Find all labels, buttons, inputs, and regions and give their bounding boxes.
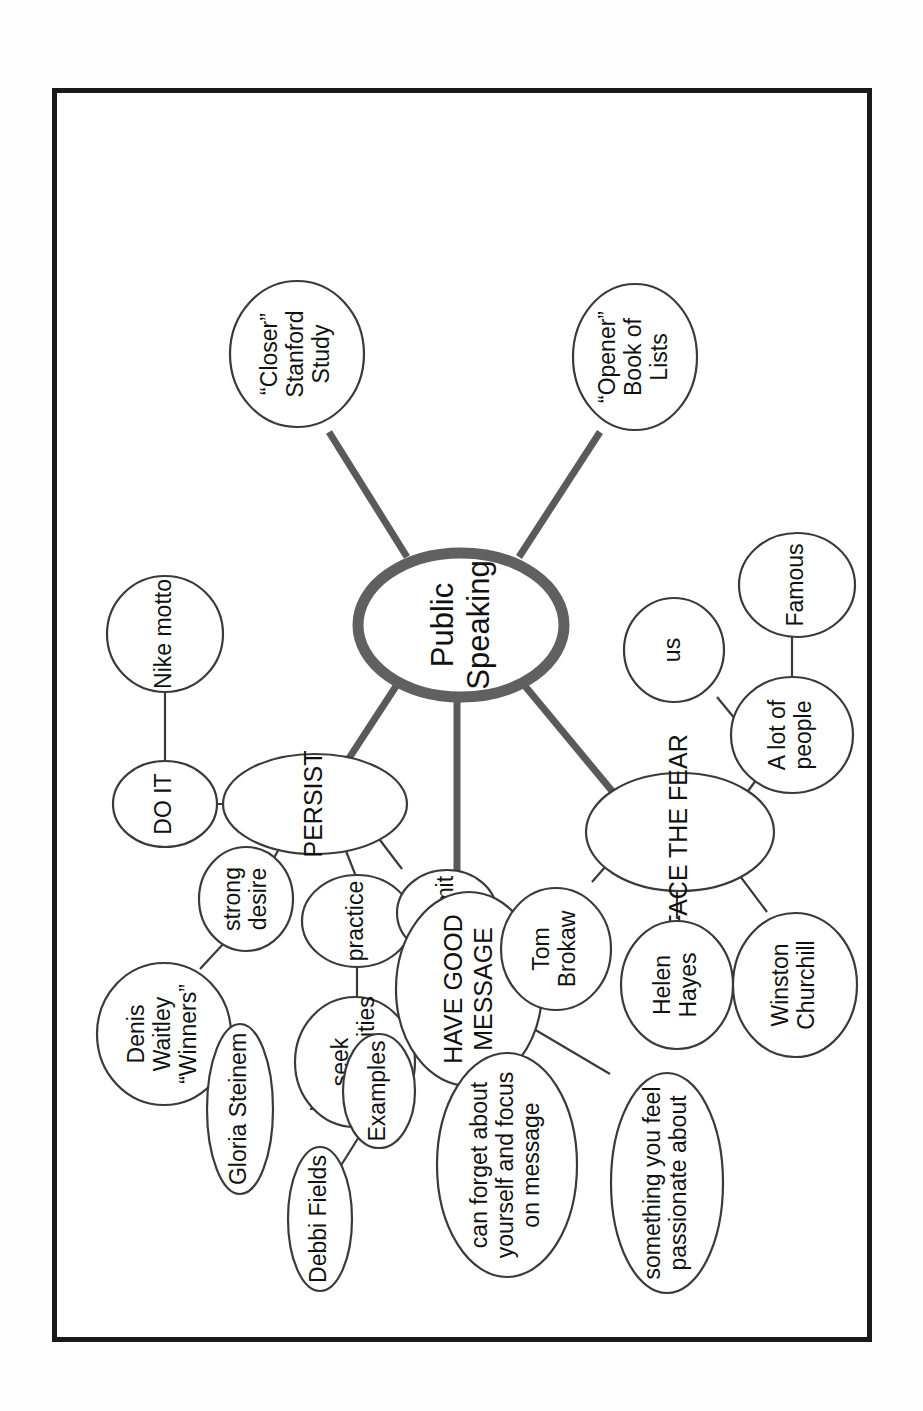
- node-label-closer-line3: Study: [308, 324, 334, 383]
- node-strong-desire[interactable]: strong desire: [199, 847, 293, 951]
- node-label-us: us: [659, 638, 685, 662]
- node-label-examples: Examples: [364, 1041, 390, 1142]
- node-label-opener-line1: “Opener”: [594, 311, 620, 403]
- page-canvas: Public Speaking PERSIST DO IT Nike motto: [0, 0, 923, 1411]
- node-label-public-speaking-line1: Public: [425, 583, 460, 667]
- node-label-passionate-line1: something you feel: [639, 1086, 665, 1279]
- node-label-denis-line3: “Winners”: [175, 984, 201, 1084]
- node-helen-hayes[interactable]: Helen Hayes: [621, 921, 733, 1049]
- node-famous[interactable]: Famous: [739, 533, 855, 637]
- mindmap-svg: Public Speaking PERSIST DO IT Nike motto: [57, 93, 867, 1337]
- node-label-face-the-fear: FACE THE FEAR: [664, 734, 692, 929]
- node-label-message-line2: MESSAGE: [469, 927, 497, 1051]
- node-label-denis-line1: Denis: [123, 1005, 149, 1064]
- node-label-gloria-steinem: Gloria Steinem: [225, 1033, 251, 1185]
- node-label-debbi-fields: Debbi Fields: [305, 1155, 331, 1283]
- node-label-tom-line1: Tom: [528, 927, 554, 970]
- node-label-closer-line2: Stanford: [282, 311, 308, 398]
- node-label-forget-line2: yourself and focus: [492, 1072, 518, 1259]
- edge-center-closer: [329, 432, 407, 557]
- node-practice[interactable]: practice: [302, 875, 412, 967]
- node-label-opener-line3: Lists: [646, 333, 672, 380]
- node-label-alot-line1: A lot of: [764, 699, 790, 770]
- node-label-helen-line2: Hayes: [675, 952, 701, 1017]
- diagram-frame: Public Speaking PERSIST DO IT Nike motto: [52, 88, 872, 1342]
- node-label-winston-line1: Winston: [767, 943, 793, 1026]
- node-passionate[interactable]: something you feel passionate about: [611, 1073, 723, 1293]
- node-label-tom-line2: Brokaw: [554, 910, 580, 987]
- node-us[interactable]: us: [624, 598, 724, 702]
- node-examples[interactable]: Examples: [343, 1034, 415, 1148]
- node-label-alot-line2: people: [790, 700, 816, 769]
- node-label-forget-line1: can forget about: [466, 1081, 492, 1248]
- edge-face-winston: [737, 872, 767, 912]
- node-debbi-fields[interactable]: Debbi Fields: [288, 1147, 352, 1291]
- node-label-denis-line2: Waitley: [149, 996, 175, 1071]
- node-gloria-steinem[interactable]: Gloria Steinem: [207, 1024, 273, 1194]
- mindmap-rotated-wrapper: Public Speaking PERSIST DO IT Nike motto: [57, 93, 867, 1337]
- node-label-passionate-line2: passionate about: [665, 1095, 691, 1271]
- node-winston-churchill[interactable]: Winston Churchill: [733, 913, 857, 1057]
- edge-center-opener: [519, 432, 600, 557]
- node-label-closer-line1: “Closer”: [256, 313, 282, 395]
- node-label-strong-desire-line1: strong: [219, 867, 245, 931]
- node-label-message-line1: HAVE GOOD: [439, 914, 467, 1064]
- node-persist[interactable]: PERSIST: [223, 751, 407, 858]
- node-opener-book-of-lists[interactable]: “Opener” Book of Lists: [573, 284, 697, 430]
- node-nike-motto[interactable]: Nike motto: [107, 576, 223, 692]
- node-label-nike-motto: Nike motto: [150, 579, 176, 689]
- node-tom-brokaw[interactable]: Tom Brokaw: [501, 888, 611, 1010]
- node-label-winston-line2: Churchill: [793, 940, 819, 1029]
- edge-strong-desire-denis: [200, 942, 225, 969]
- node-public-speaking[interactable]: Public Speaking: [358, 553, 564, 697]
- node-label-practice: practice: [342, 881, 368, 962]
- edge-center-face-fear: [520, 680, 617, 797]
- node-label-helen-line1: Helen: [649, 955, 675, 1015]
- node-label-strong-desire-line2: desire: [245, 868, 271, 931]
- node-a-lot-of-people[interactable]: A lot of people: [731, 677, 853, 793]
- node-label-public-speaking-line2: Speaking: [461, 560, 496, 689]
- node-can-forget[interactable]: can forget about yourself and focus on m…: [437, 1053, 577, 1277]
- node-closer-stanford-study[interactable]: “Closer” Stanford Study: [230, 281, 364, 427]
- node-label-do-it: DO IT: [150, 773, 176, 834]
- node-label-famous: Famous: [782, 543, 808, 626]
- node-label-opener-line2: Book of: [620, 317, 646, 396]
- node-label-forget-line3: on message: [518, 1102, 544, 1227]
- node-label-persist: PERSIST: [299, 751, 327, 858]
- node-do-it[interactable]: DO IT: [113, 761, 217, 847]
